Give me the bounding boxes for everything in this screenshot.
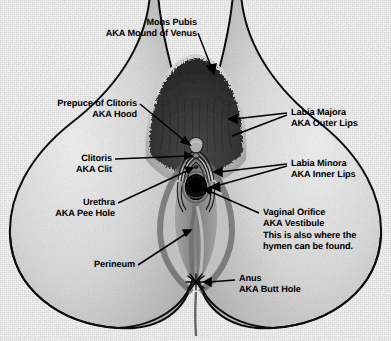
label-mons-pubis: Mons Pubis AKA Mound of Venus (55, 17, 197, 40)
label-labia-majora: Labia Majora AKA Outer Lips (291, 107, 391, 130)
label-labia-minora: Labia Minora AKA Inner Lips (291, 158, 391, 181)
clitoris-glans (193, 153, 200, 158)
label-urethra: Urethra AKA Pee Hole (0, 197, 115, 220)
diagram-canvas: Mons Pubis AKA Mound of Venus Prepuce of… (0, 0, 391, 341)
label-vaginal-orifice: Vaginal Orifice AKA Vestibule This is al… (263, 207, 391, 253)
anus-center (194, 280, 197, 283)
label-prepuce-of-clitoris: Prepuce of Clitoris AKA Hood (0, 98, 137, 121)
label-anus: Anus AKA Butt Hole (239, 273, 349, 296)
gluteal-cleft (195, 292, 196, 336)
label-clitoris: Clitoris AKA Clit (0, 153, 112, 176)
urethral-opening (194, 166, 198, 169)
label-perineum: Perineum (30, 259, 135, 270)
